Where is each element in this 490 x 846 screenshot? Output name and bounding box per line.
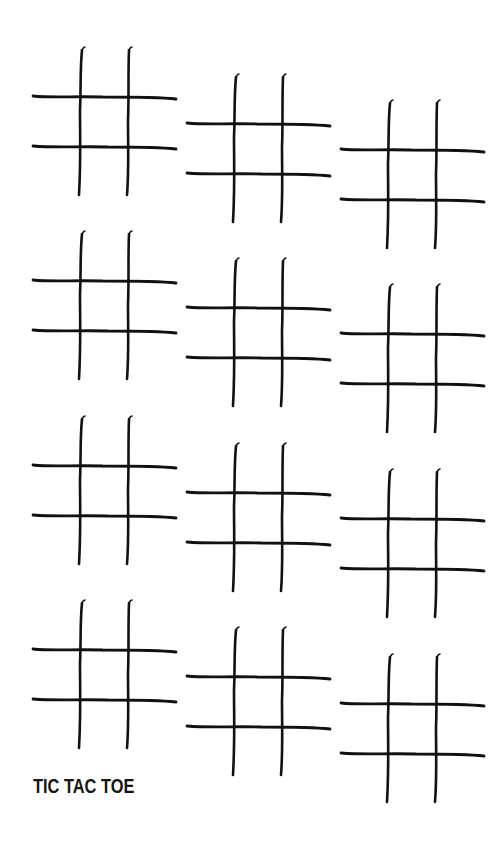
tic-tac-toe-grid-icon: [33, 234, 183, 384]
tic-tac-toe-grid-icon: [187, 630, 337, 780]
tic-tac-toe-grid-icon: [341, 657, 490, 807]
tic-tac-toe-grid-icon: [33, 50, 183, 200]
tic-tac-toe-grid-r3-c2: [187, 446, 337, 596]
tic-tac-toe-grid-icon: [341, 103, 490, 253]
tic-tac-toe-grid-r4-c2: [187, 630, 337, 780]
tic-tac-toe-grid-r4-c3: [341, 657, 490, 807]
tic-tac-toe-grid-r2-c3: [341, 287, 490, 437]
tic-tac-toe-grid-icon: [341, 472, 490, 622]
tic-tac-toe-grid-icon: [187, 446, 337, 596]
tic-tac-toe-grid-icon: [33, 603, 183, 753]
tic-tac-toe-grid-r1-c1: [33, 50, 183, 200]
tic-tac-toe-grid-icon: [341, 287, 490, 437]
tic-tac-toe-grid-r3-c1: [33, 419, 183, 569]
tic-tac-toe-grid-r2-c2: [187, 261, 337, 411]
tic-tac-toe-grid-r1-c3: [341, 103, 490, 253]
tic-tac-toe-grid-r2-c1: [33, 234, 183, 384]
tic-tac-toe-grid-icon: [33, 419, 183, 569]
tic-tac-toe-grid-r1-c2: [187, 77, 337, 227]
tic-tac-toe-grid-r3-c3: [341, 472, 490, 622]
tic-tac-toe-grid-icon: [187, 261, 337, 411]
page-title: TIC TAC TOE: [33, 774, 134, 798]
tic-tac-toe-grid-r4-c1: [33, 603, 183, 753]
tic-tac-toe-grid-icon: [187, 77, 337, 227]
